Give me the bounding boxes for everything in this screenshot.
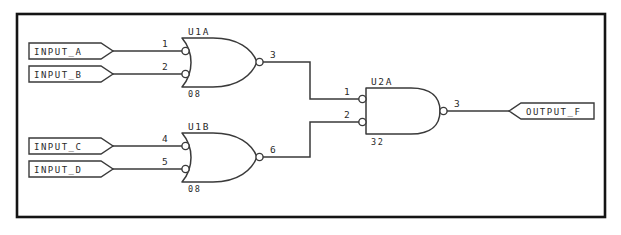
schematic-canvas: U1A 08 1 2 3 U1B 08 4 5 6 U2A 32 — [0, 0, 621, 235]
gate-u1b-partnum: 08 — [188, 184, 201, 194]
gate-u1b-input-bubble-2 — [182, 165, 189, 172]
port-input-d-label: INPUT_D — [34, 165, 82, 175]
port-input-a-label: INPUT_A — [34, 47, 82, 57]
gate-u1a-output-bubble — [256, 58, 263, 65]
port-input-c[interactable]: INPUT_C — [29, 138, 113, 154]
gate-u2a-output-bubble — [440, 107, 447, 114]
gate-u2a[interactable]: U2A 32 1 2 3 — [344, 76, 460, 147]
gate-u1a-refdes: U1A — [188, 26, 210, 37]
gate-u1b[interactable]: U1B 08 4 5 6 — [162, 121, 276, 194]
gate-u1a-input-bubble-2 — [182, 70, 189, 77]
gate-u2a-input-bubble-1 — [359, 95, 366, 102]
net-u1b-out-to-u2a-2 — [262, 122, 363, 157]
port-input-c-label: INPUT_C — [34, 142, 82, 152]
port-input-b-label: INPUT_B — [34, 70, 82, 80]
gate-u1b-input-bubble-1 — [182, 142, 189, 149]
gate-u2a-pin-3: 3 — [454, 98, 460, 109]
gate-u1b-pin-5: 5 — [162, 156, 168, 167]
schematic-drawing: U1A 08 1 2 3 U1B 08 4 5 6 U2A 32 — [0, 0, 621, 235]
gate-u1a-input-bubble-1 — [182, 47, 189, 54]
gate-u2a-refdes: U2A — [371, 76, 393, 87]
port-input-d[interactable]: INPUT_D — [29, 161, 113, 177]
gate-u2a-partnum: 32 — [371, 137, 384, 147]
gate-u1b-pin-4: 4 — [162, 133, 168, 144]
gate-u1a-partnum: 08 — [188, 89, 201, 99]
gate-u1a-pin-2: 2 — [162, 61, 168, 72]
gate-u1b-output-bubble — [256, 153, 263, 160]
gate-u1a-pin-1: 1 — [162, 38, 168, 49]
gate-u2a-pin-2: 2 — [344, 109, 350, 120]
gate-u1a-pin-3: 3 — [270, 49, 276, 60]
port-output-f[interactable]: OUTPUT_F — [509, 103, 594, 119]
gate-u2a-input-bubble-2 — [359, 118, 366, 125]
gate-u1b-pin-6: 6 — [270, 144, 276, 155]
port-input-b[interactable]: INPUT_B — [29, 66, 113, 82]
port-output-f-label: OUTPUT_F — [526, 107, 581, 117]
gate-u1b-refdes: U1B — [188, 121, 210, 132]
gate-u2a-pin-1: 1 — [344, 86, 350, 97]
port-input-a[interactable]: INPUT_A — [29, 43, 113, 59]
gate-u1a[interactable]: U1A 08 1 2 3 — [162, 26, 276, 99]
